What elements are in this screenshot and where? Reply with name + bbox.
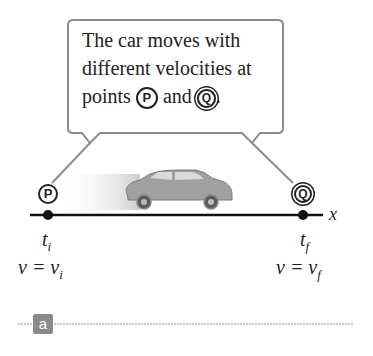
callout-text: The car moves with different velocities … [82, 26, 297, 110]
point-q-label: Q [294, 185, 312, 203]
velocity-initial: v = vi [18, 256, 63, 283]
point-p-symbol: P [136, 87, 158, 109]
pointer-line-q [252, 143, 293, 183]
time-final: tf [300, 228, 309, 255]
velocity-final: v = vf [276, 256, 321, 283]
callout-line-2: different velocities at [82, 54, 297, 82]
point-p-label: P [38, 184, 58, 204]
x-axis-label: x [329, 204, 337, 225]
point-q-dot [298, 210, 308, 220]
callout-line-1: The car moves with [82, 26, 297, 54]
point-q-symbol: Q [197, 89, 216, 108]
point-p-dot [43, 210, 53, 220]
panel-label-badge: a [33, 314, 53, 334]
car [60, 170, 232, 210]
callout-line-3: points P and Q. [82, 82, 297, 110]
time-initial: ti [42, 228, 51, 255]
